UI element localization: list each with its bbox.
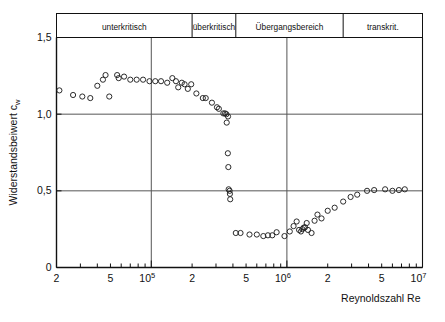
data-point	[80, 94, 85, 99]
regime-label-1: unterkritisch	[102, 22, 147, 32]
data-point	[140, 77, 145, 82]
data-point	[158, 79, 163, 84]
data-point	[254, 232, 259, 237]
data-point	[176, 85, 181, 90]
data-point	[128, 77, 133, 82]
x-tick-label: 2	[325, 272, 331, 284]
data-point	[325, 208, 330, 213]
data-point	[228, 197, 233, 202]
plot-frame	[57, 38, 423, 268]
data-point	[226, 164, 231, 169]
y-axis-ticks: 00,51,01,5	[37, 31, 62, 273]
data-point	[348, 194, 353, 199]
regime-band-row: unterkritischüberkritischÜbergangsbereic…	[57, 14, 423, 38]
data-points	[57, 72, 408, 238]
data-point	[103, 72, 108, 77]
axis-labels: Reynoldszahl ReWiderstandsbeiwert cw	[7, 99, 421, 303]
data-point	[282, 233, 287, 238]
data-point	[121, 74, 126, 79]
data-point	[274, 230, 279, 235]
data-point	[309, 230, 314, 235]
data-point	[88, 95, 93, 100]
data-point	[173, 79, 178, 84]
data-point	[287, 229, 292, 234]
x-axis-ticks: 252525105106107	[54, 261, 427, 284]
data-point	[189, 82, 194, 87]
x-tick-label-power: 105	[139, 271, 155, 284]
data-point	[372, 187, 377, 192]
data-point	[57, 88, 62, 93]
y-tick-label: 0	[46, 261, 52, 273]
regime-label-4: transkrit.	[367, 22, 399, 32]
data-point	[165, 80, 170, 85]
data-point	[70, 92, 75, 97]
regime-label-2: überkritisch	[193, 22, 236, 32]
data-point	[319, 216, 324, 221]
data-point	[341, 199, 346, 204]
data-point	[396, 187, 401, 192]
data-point	[312, 218, 317, 223]
x-tick-label-power: 106	[275, 271, 291, 284]
x-tick-label: 2	[189, 272, 195, 284]
x-tick-label: 2	[54, 272, 60, 284]
y-tick-label: 1,0	[37, 108, 52, 120]
data-point	[185, 86, 190, 91]
y-tick-label: 0,5	[37, 184, 52, 196]
data-point	[153, 79, 158, 84]
y-axis-label: Widerstandsbeiwert cw	[7, 99, 22, 205]
data-point	[224, 120, 229, 125]
data-point	[134, 77, 139, 82]
x-tick-label: 5	[379, 272, 385, 284]
gridlines	[57, 38, 423, 268]
data-point	[107, 94, 112, 99]
data-point	[194, 91, 199, 96]
x-tick-label-power: 107	[411, 271, 427, 284]
regime-label-3: Übergangsbereich	[256, 22, 324, 32]
drag-coefficient-vs-reynolds-chart: unterkritischüberkritischÜbergangsbereic…	[0, 0, 445, 322]
data-point	[332, 205, 337, 210]
x-axis-label: Reynoldszahl Re	[341, 292, 421, 304]
data-point	[209, 100, 214, 105]
chart-figure: unterkritischüberkritischÜbergangsbereic…	[0, 0, 445, 322]
data-point	[95, 83, 100, 88]
data-point	[247, 232, 252, 237]
data-point	[355, 192, 360, 197]
x-tick-label: 5	[108, 272, 114, 284]
x-tick-label: 5	[243, 272, 249, 284]
y-tick-label: 1,5	[37, 31, 52, 43]
data-point	[294, 219, 299, 224]
data-point	[225, 151, 230, 156]
